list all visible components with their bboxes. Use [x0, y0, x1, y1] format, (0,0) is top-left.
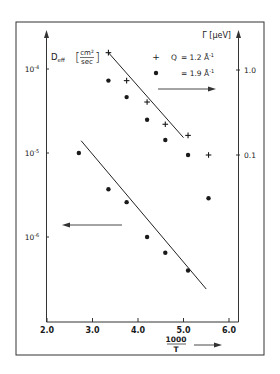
- data-point-cross: [163, 121, 169, 127]
- fit-line: [108, 53, 183, 138]
- data-point-dot: [163, 138, 167, 142]
- legend-marker-dot: [154, 71, 158, 75]
- svg-text:1000: 1000: [166, 335, 187, 344]
- y-right-tick-label: 0.1: [244, 151, 256, 160]
- legend-marker-cross: +: [152, 52, 160, 62]
- x-axis-label: 1000 T: [166, 335, 187, 354]
- x-tick-label: 2.0: [40, 326, 55, 335]
- right-y-axis-arrowhead: [236, 30, 241, 38]
- x-tick-label: 4.0: [131, 326, 146, 335]
- chart: 2.03.04.05.06.0 10-410-510-6 1.00.1 Deff…: [0, 0, 280, 374]
- legend-label-q19: = 1.9 Å-1: [181, 68, 214, 78]
- data-point-cross: [206, 152, 212, 158]
- x-tick-label: 5.0: [176, 326, 191, 335]
- svg-text:T: T: [173, 345, 179, 354]
- y-left-ticks: 10-410-510-6: [25, 64, 49, 242]
- data-point-cross: [185, 133, 191, 139]
- legend-label-q12: Q= 1.2 Å-1: [171, 52, 214, 62]
- data-point-dot: [106, 187, 110, 191]
- data-point-dot: [163, 251, 167, 255]
- y-left-tick-label: 10-6: [25, 232, 40, 242]
- data-point-dot: [186, 153, 190, 157]
- left-y-axis-label: Deff [ cm² sec ]: [51, 49, 100, 66]
- left-y-axis-arrowhead: [44, 30, 49, 38]
- data-point-dot: [145, 235, 149, 239]
- fit-line: [81, 141, 206, 289]
- y-right-ticks: 1.00.1: [236, 66, 256, 160]
- right-y-axis-label: Γ [μeV]: [202, 31, 231, 40]
- data-point-dot: [106, 78, 110, 82]
- data-point-dot: [186, 268, 190, 272]
- data-point-dot: [124, 200, 128, 204]
- data-points: [77, 50, 212, 273]
- data-point-dot: [77, 151, 81, 155]
- fit-lines: [81, 53, 206, 289]
- svg-text:cm²: cm²: [80, 49, 94, 57]
- legend: + Q= 1.2 Å-1 = 1.9 Å-1: [152, 52, 214, 78]
- annotation-arrows: [62, 87, 222, 348]
- svg-text:sec: sec: [81, 58, 93, 66]
- data-point-dot: [145, 118, 149, 122]
- svg-text:Deff: Deff: [51, 52, 65, 63]
- outer-frame: [16, 22, 264, 355]
- svg-text:]: ]: [95, 50, 100, 65]
- y-left-tick-label: 10-4: [25, 64, 40, 74]
- data-point-dot: [124, 95, 128, 99]
- y-right-tick-label: 1.0: [244, 66, 256, 75]
- x-tick-label: 6.0: [222, 326, 237, 335]
- data-point-dot: [206, 196, 210, 200]
- x-ticks: 2.03.04.05.06.0: [40, 318, 237, 335]
- data-point-cross: [124, 78, 130, 84]
- y-left-tick-label: 10-5: [25, 148, 40, 158]
- x-tick-label: 3.0: [85, 326, 100, 335]
- data-point-cross: [144, 99, 150, 105]
